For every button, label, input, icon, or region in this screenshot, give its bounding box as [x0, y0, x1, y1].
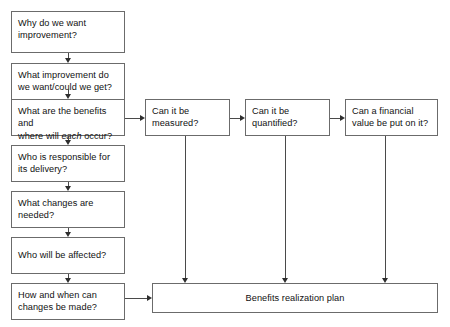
arrowhead-benefits-to-measured	[140, 115, 145, 121]
arrowhead-financial-to-plan	[382, 278, 388, 283]
connector-benefits-to-measured	[125, 118, 140, 119]
node-who-responsible: Who is responsible for its delivery?	[11, 145, 125, 182]
arrowhead-why-to-what	[65, 58, 71, 63]
arrowhead-quantified-to-plan	[282, 278, 288, 283]
node-line-2-part-a: where will	[18, 131, 61, 141]
node-line-1: Who will be affected?	[18, 249, 118, 261]
node-why-improvement: Why do we want improvement?	[11, 11, 125, 53]
node-line-2: needed?	[18, 209, 118, 221]
connector-howwhen-to-plan	[125, 298, 147, 299]
node-how-when-changes: How and when can changes be made?	[11, 283, 125, 320]
arrowhead-who-to-changes	[65, 186, 71, 191]
node-benefits-where: What are the benefits and where will eac…	[11, 99, 125, 136]
node-line-1: Can it be	[252, 105, 323, 117]
node-line-1: What changes are	[18, 197, 118, 209]
node-can-quantified: Can it be quantified?	[245, 99, 330, 136]
node-line-1: Who is responsible for	[18, 151, 118, 163]
arrowhead-benefits-to-who	[65, 140, 71, 145]
connector-measured-to-quantified	[230, 118, 240, 119]
node-line-2: changes be made?	[18, 301, 118, 313]
node-line-2: quantified?	[252, 117, 323, 129]
arrowhead-measured-to-plan	[182, 278, 188, 283]
node-financial-value: Can a financial value be put on it?	[345, 99, 438, 136]
arrowhead-affected-to-howwhen	[65, 278, 71, 283]
node-line-2: improvement?	[18, 29, 118, 41]
connector-financial-to-plan	[385, 136, 386, 278]
node-line-2-part-b: occur?	[82, 131, 112, 141]
node-line-2: its delivery?	[18, 163, 118, 175]
arrowhead-howwhen-to-plan	[147, 295, 152, 301]
arrowhead-quantified-to-financial	[340, 115, 345, 121]
node-what-changes: What changes are needed?	[11, 191, 125, 228]
connector-what-to-benefits-line	[68, 89, 69, 94]
arrowhead-changes-to-affected	[65, 232, 71, 237]
arrowhead-measured-to-quantified	[240, 115, 245, 121]
node-can-measured: Can it be measured?	[145, 99, 230, 136]
node-line-1: Can it be	[152, 105, 223, 117]
node-who-affected: Who will be affected?	[11, 237, 125, 274]
node-label: Benefits realization plan	[246, 292, 345, 304]
node-line-1: Why do we want	[18, 17, 118, 29]
node-line-1: What improvement do	[18, 69, 118, 81]
node-line-1: Can a financial	[352, 105, 431, 117]
connector-quantified-to-plan	[285, 136, 286, 278]
node-line-1: How and when can	[18, 289, 118, 301]
arrowhead-what-to-benefits	[65, 94, 71, 99]
connector-measured-to-plan	[185, 136, 186, 278]
node-benefits-plan: Benefits realization plan	[152, 283, 438, 313]
node-line-2: value be put on it?	[352, 117, 431, 129]
connector-quantified-to-financial	[330, 118, 340, 119]
node-line-1: What are the benefits and	[18, 105, 118, 130]
flowchart-canvas: Why do we want improvement? What improve…	[0, 0, 450, 327]
node-line-2: measured?	[152, 117, 223, 129]
